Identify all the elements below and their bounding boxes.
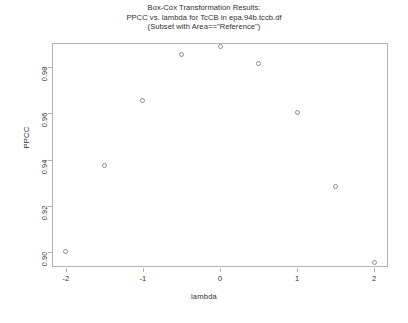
scatter-point bbox=[179, 52, 184, 57]
scatter-point bbox=[333, 184, 338, 189]
plot-area bbox=[52, 43, 388, 267]
x-axis-tick bbox=[66, 268, 67, 272]
x-axis-tick bbox=[374, 268, 375, 272]
x-axis-tick bbox=[220, 268, 221, 272]
chart-title: Box-Cox Transformation Results: PPCC vs.… bbox=[0, 3, 408, 32]
x-axis-tick-label: 0 bbox=[205, 274, 235, 283]
y-axis-tick bbox=[48, 113, 52, 114]
y-axis-tick-label: 0.92 bbox=[40, 205, 49, 245]
y-axis-tick-label: 0.90 bbox=[40, 251, 49, 291]
chart-title-line-3: (Subset with Area=="Reference") bbox=[0, 22, 408, 32]
y-axis-tick bbox=[48, 252, 52, 253]
x-axis-tick bbox=[143, 268, 144, 272]
y-axis-tick bbox=[48, 67, 52, 68]
scatter-point bbox=[372, 260, 377, 265]
x-axis-tick-label: 1 bbox=[282, 274, 312, 283]
x-axis-tick-label: 2 bbox=[359, 274, 389, 283]
scatter-point bbox=[102, 163, 107, 168]
y-axis-tick-label: 0.96 bbox=[40, 113, 49, 153]
y-axis-tick bbox=[48, 160, 52, 161]
x-axis-tick-label: -2 bbox=[51, 274, 81, 283]
y-axis-tick bbox=[48, 206, 52, 207]
scatter-point bbox=[295, 110, 300, 115]
x-axis-title: lambda bbox=[0, 292, 408, 301]
y-axis-tick-label: 0.98 bbox=[40, 67, 49, 107]
y-axis-title: PPCC bbox=[22, 127, 31, 149]
chart-title-line-1: Box-Cox Transformation Results: bbox=[0, 3, 408, 13]
chart-title-line-2: PPCC vs. lambda for TcCB in epa.94b.tccb… bbox=[0, 13, 408, 23]
box-cox-scatter-figure: Box-Cox Transformation Results: PPCC vs.… bbox=[0, 0, 408, 323]
x-axis-tick-label: -1 bbox=[128, 274, 158, 283]
x-axis-tick bbox=[297, 268, 298, 272]
y-axis-tick-label: 0.94 bbox=[40, 159, 49, 199]
